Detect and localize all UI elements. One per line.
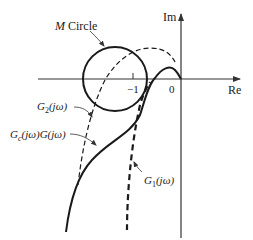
nyquist-diagram: Im Re −1 0 M Circle G2(jω) Gc(jω)G(jω) G… xyxy=(0,0,253,240)
g2-label: G2(jω) xyxy=(37,100,67,115)
imag-axis-label: Im xyxy=(163,10,177,24)
m-circle-leader xyxy=(90,31,104,46)
gc-leader xyxy=(70,134,96,145)
tick-label-minus-one: −1 xyxy=(127,83,139,95)
tick-label-zero: 0 xyxy=(169,83,175,95)
g2-leader xyxy=(74,107,92,117)
real-axis-label: Re xyxy=(228,83,241,97)
g1-label: G1(jω) xyxy=(144,174,174,189)
gc-g-label: Gc(jω)G(jω) xyxy=(10,128,66,143)
m-circle-label: M Circle xyxy=(54,19,97,33)
g1-curve xyxy=(127,82,150,230)
g2-curve xyxy=(78,48,176,185)
g1-leader xyxy=(134,162,142,172)
